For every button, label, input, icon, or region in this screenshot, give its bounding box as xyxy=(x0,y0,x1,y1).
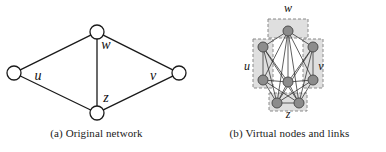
node-label-u: u xyxy=(35,68,42,83)
panel-b-canvas: wuvz xyxy=(193,0,386,126)
virtual-node-z2 xyxy=(294,98,304,108)
group-label-z: z xyxy=(285,107,291,121)
node-label-z: z xyxy=(102,90,109,105)
panel-original-network: wuvz (a) Original network xyxy=(0,0,193,152)
group-label-w: w xyxy=(284,1,292,15)
panel-virtual-nodes: wuvz (b) Virtual nodes and links xyxy=(193,0,386,152)
edge-u-w xyxy=(20,35,90,70)
edge-w-v xyxy=(103,35,172,70)
virtual-node-z1 xyxy=(272,98,282,108)
node-label-v: v xyxy=(150,68,157,83)
virtual-node-z0 xyxy=(283,77,293,87)
virtual-node-w1 xyxy=(283,26,293,36)
original-network-labels: wuvz xyxy=(35,37,157,105)
virtual-node-v2 xyxy=(308,75,318,85)
virtual-node-u2 xyxy=(258,75,268,85)
original-network-graph: wuvz xyxy=(0,0,193,126)
virtual-node-v1 xyxy=(308,42,318,52)
group-label-v: v xyxy=(318,59,324,73)
panel-a-canvas: wuvz xyxy=(0,0,193,126)
panel-a-caption: (a) Original network xyxy=(0,126,193,140)
group-label-u: u xyxy=(244,59,250,73)
virtual-node-u1 xyxy=(258,42,268,52)
panel-b-caption: (b) Virtual nodes and links xyxy=(193,126,386,140)
virtual-network-graph: wuvz xyxy=(193,0,386,126)
edge-z-v xyxy=(103,76,172,110)
node-u xyxy=(7,66,21,80)
node-z xyxy=(90,106,104,120)
node-v xyxy=(172,66,186,80)
figure-root: wuvz (a) Original network wuvz (b) Virtu… xyxy=(0,0,386,152)
edge-u-z xyxy=(20,76,90,110)
node-label-w: w xyxy=(101,37,111,52)
